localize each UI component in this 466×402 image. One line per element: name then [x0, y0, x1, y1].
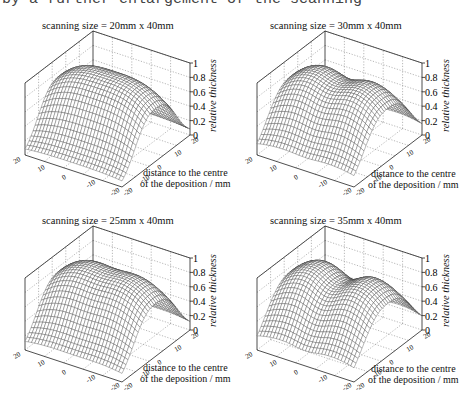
x-tick-label: -20: [341, 186, 354, 198]
x-tick-label: -20: [341, 381, 354, 393]
x-axis-label: distance to the centreof the deposition …: [368, 363, 459, 385]
x-axis-label: distance to the centreof the deposition …: [140, 362, 231, 384]
x-tick-label: -20: [109, 381, 122, 393]
z-tick-label: 0.2: [425, 311, 438, 322]
z-axis-label: relative thickness: [440, 59, 451, 132]
x-tick-label: 10: [36, 358, 46, 369]
z-tick-label: 0.6: [193, 87, 206, 98]
caption-text: by a further enlargement of the scanning: [2, 0, 362, 8]
x-tick-label: 20: [12, 350, 22, 361]
z-tick-label: 1: [425, 58, 430, 69]
z-tick-label: 0.8: [425, 267, 438, 278]
y-tick-label: 20: [422, 330, 432, 341]
z-tick-label: 0.4: [425, 101, 438, 112]
y-tick-label: 10: [405, 148, 415, 159]
surface-mesh: [25, 260, 190, 373]
y-tick-label: 20: [190, 330, 200, 341]
x-tick-label: 10: [268, 358, 278, 369]
x-tick-label: 20: [12, 155, 22, 166]
x-tick-label: 0: [293, 173, 300, 182]
y-tick-label: -20: [354, 186, 367, 198]
z-tick-label: 0.8: [425, 72, 438, 83]
z-tick-label: 0.6: [193, 282, 206, 293]
z-tick-label: 0.2: [193, 311, 206, 322]
x-tick-label: 20: [244, 350, 254, 361]
x-tick-label: 0: [293, 368, 300, 377]
z-tick-label: 0.4: [425, 296, 438, 307]
z-tick-label: 1: [193, 58, 198, 69]
x-tick-label: -10: [317, 373, 330, 385]
z-tick-label: 0.8: [193, 72, 206, 83]
x-tick-label: -10: [85, 373, 98, 385]
plot-panel-3: scanning size = 25mm x 40mm 00.20.40.60.…: [0, 210, 233, 402]
z-tick-label: 0.6: [425, 87, 438, 98]
plot-panel-4: scanning size = 35mm x 40mm 00.20.40.60.…: [240, 210, 466, 402]
z-tick-label: 0.8: [193, 267, 206, 278]
x-axis-label: distance to the centreof the deposition …: [368, 168, 459, 190]
z-axis-label: relative thickness: [207, 254, 218, 327]
x-tick-label: -10: [317, 178, 330, 190]
plot-panel-1: scanning size = 20mm x 40mm 00.20.40.60.…: [0, 15, 233, 210]
z-axis-label: relative thickness: [440, 254, 451, 327]
surface-mesh: [257, 260, 422, 368]
z-tick-label: 0.4: [193, 101, 206, 112]
x-axis-label: distance to the centreof the deposition …: [140, 167, 231, 189]
z-tick-label: 0.4: [193, 296, 206, 307]
x-tick-label: 0: [61, 173, 68, 182]
z-tick-label: 1: [425, 253, 430, 264]
x-tick-label: -10: [85, 178, 98, 190]
x-tick-label: 20: [244, 155, 254, 166]
x-tick-label: -20: [109, 186, 122, 198]
plot-panel-2: scanning size = 30mm x 40mm 00.20.40.60.…: [240, 15, 466, 210]
z-tick-label: 0.2: [425, 116, 438, 127]
y-tick-label: -20: [354, 381, 367, 393]
x-tick-label: 10: [36, 163, 46, 174]
y-tick-label: 20: [422, 135, 432, 146]
y-tick-label: -20: [122, 186, 135, 198]
x-tick-label: 0: [61, 368, 68, 377]
y-tick-label: 10: [405, 343, 415, 354]
y-tick-label: -20: [122, 381, 135, 393]
x-tick-label: 10: [268, 163, 278, 174]
z-tick-label: 0.6: [425, 282, 438, 293]
z-axis-label: relative thickness: [207, 59, 218, 132]
y-tick-label: 20: [190, 135, 200, 146]
y-tick-label: 10: [173, 343, 183, 354]
y-tick-label: 10: [173, 148, 183, 159]
surface-mesh: [257, 65, 422, 175]
z-tick-label: 0.2: [193, 116, 206, 127]
surface-mesh: [25, 66, 190, 181]
z-tick-label: 1: [193, 253, 198, 264]
